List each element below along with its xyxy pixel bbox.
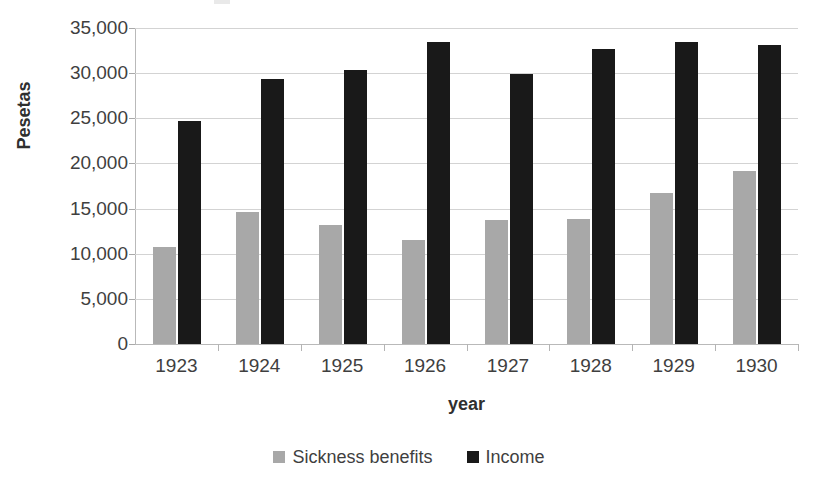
bar-income-1930[interactable] <box>758 45 781 344</box>
legend-label: Sickness benefits <box>292 448 432 466</box>
chart-legend: Sickness benefitsIncome <box>0 448 818 466</box>
x-axis-tick <box>632 344 633 351</box>
x-axis-tick-label-1930: 1930 <box>715 356 798 376</box>
y-axis-tick-label: 5,000 <box>10 289 128 308</box>
bar-group <box>715 28 798 344</box>
plot-area <box>135 28 798 344</box>
x-axis-tick-label-1924: 1924 <box>218 356 301 376</box>
x-axis-tick <box>549 344 550 351</box>
x-axis-tick <box>384 344 385 351</box>
bar-group <box>632 28 715 344</box>
bar-sickness-benefits-1928[interactable] <box>567 219 590 344</box>
y-axis-tick <box>129 344 135 345</box>
x-axis-tick-label-1929: 1929 <box>632 356 715 376</box>
bar-sickness-benefits-1929[interactable] <box>650 193 673 344</box>
bar-sickness-benefits-1930[interactable] <box>733 171 756 344</box>
bar-group <box>467 28 550 344</box>
bar-income-1927[interactable] <box>510 74 533 344</box>
legend-entry-income[interactable]: Income <box>467 448 545 466</box>
x-axis-tick-label-1928: 1928 <box>549 356 632 376</box>
y-axis-tick-label: 0 <box>10 334 128 353</box>
y-axis-tick-label: 35,000 <box>10 18 128 37</box>
x-axis-tick <box>467 344 468 351</box>
bar-group <box>218 28 301 344</box>
bar-chart: 05,00010,00015,00020,00025,00030,00035,0… <box>0 0 818 440</box>
bar-sickness-benefits-1924[interactable] <box>236 212 259 344</box>
bar-income-1924[interactable] <box>261 79 284 344</box>
bar-sickness-benefits-1923[interactable] <box>153 247 176 345</box>
bar-income-1923[interactable] <box>178 121 201 344</box>
bar-group <box>301 28 384 344</box>
bar-group <box>384 28 467 344</box>
x-axis-tick <box>715 344 716 351</box>
x-axis-tick <box>798 344 799 351</box>
x-axis-tick-label-1925: 1925 <box>301 356 384 376</box>
bar-income-1925[interactable] <box>344 70 367 344</box>
bar-sickness-benefits-1926[interactable] <box>402 240 425 344</box>
bar-group <box>549 28 632 344</box>
legend-entry-sickness-benefits[interactable]: Sickness benefits <box>273 448 432 466</box>
bar-income-1928[interactable] <box>592 49 615 344</box>
x-axis-tick <box>218 344 219 351</box>
x-axis-tick <box>301 344 302 351</box>
x-axis-title: year <box>135 394 798 415</box>
x-axis-tick-label-1926: 1926 <box>384 356 467 376</box>
legend-label: Income <box>486 448 545 466</box>
gray-square-icon <box>273 451 285 463</box>
bar-sickness-benefits-1927[interactable] <box>485 220 508 344</box>
bar-sickness-benefits-1925[interactable] <box>319 225 342 344</box>
black-square-icon <box>467 451 479 463</box>
bar-income-1929[interactable] <box>675 42 698 344</box>
x-axis-tick-label-1927: 1927 <box>467 356 550 376</box>
y-axis-title: Pesetas <box>14 56 35 176</box>
y-axis-tick-label: 15,000 <box>10 199 128 218</box>
y-axis-tick-label: 10,000 <box>10 244 128 263</box>
bar-group <box>135 28 218 344</box>
bar-income-1926[interactable] <box>427 42 450 344</box>
chart-page: 05,00010,00015,00020,00025,00030,00035,0… <box>0 0 818 482</box>
x-axis-tick-label-1923: 1923 <box>135 356 218 376</box>
